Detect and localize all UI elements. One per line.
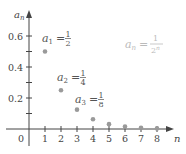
data-point [139,125,144,130]
x-tick-label: 6 [122,133,128,144]
x-tick-labels: 012345678 [18,133,160,144]
x-tick-label: 5 [106,133,112,144]
data-point [155,126,160,131]
svg-text:2: 2 [65,39,70,48]
data-point [75,107,80,112]
svg-text:1: 1 [80,69,85,78]
svg-text:1: 1 [65,30,70,39]
y-axis-arrow-icon [26,10,32,18]
data-point [43,49,48,54]
annotation-a1: a1=12 [42,30,71,48]
y-tick-label: 0.4 [8,62,23,73]
data-point [91,117,96,122]
data-point [123,124,128,129]
annotation-a2: a2=14 [57,69,86,87]
svg-text:1: 1 [98,91,103,100]
sequence-chart: 0.20.40.6 012345678 an n a1=12a2=14a3=18… [0,0,186,154]
annotation-a3: a3=18 [75,91,104,109]
y-tick-label: 0.6 [8,31,23,42]
x-axis-title: n [174,133,180,144]
data-point [107,122,112,127]
x-tick-label: 1 [42,133,48,144]
svg-text:1: 1 [153,34,158,43]
svg-text:2n: 2n [151,44,160,55]
y-tick-labels: 0.20.40.6 [8,31,23,104]
formula-label: an = 1 2n [125,34,163,55]
svg-text:a3: a3 [75,93,86,107]
data-points [43,49,160,130]
point-annotations: a1=12a2=14a3=18 [42,30,104,109]
x-tick-label: 7 [138,133,144,144]
x-tick-label: 2 [58,133,64,144]
svg-text:=: = [56,32,65,45]
y-axis-title: an [14,9,25,22]
svg-text:8: 8 [98,100,103,109]
data-point [59,88,64,93]
x-tick-label: 8 [154,133,160,144]
svg-text:=: = [139,38,148,51]
x-tick-label: 0 [18,133,24,144]
svg-text:a2: a2 [57,71,68,85]
x-axis-arrow-icon [166,126,174,132]
x-tick-label: 3 [74,133,80,144]
svg-text:a1: a1 [42,32,53,46]
x-tick-label: 4 [90,133,96,144]
svg-text:4: 4 [80,78,85,87]
y-tick-label: 0.2 [8,93,23,104]
svg-text:an: an [125,38,137,52]
svg-text:=: = [71,71,80,84]
svg-text:=: = [89,93,98,106]
